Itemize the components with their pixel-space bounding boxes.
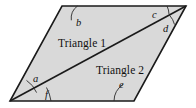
angle-label-d: d: [163, 23, 169, 34]
angle-label-e: e: [119, 79, 124, 90]
geometry-figure: Parallelogram divided by a diagonal into…: [0, 0, 196, 108]
angle-label-a: a: [33, 73, 38, 84]
parallelogram-diagram: Parallelogram divided by a diagonal into…: [0, 0, 196, 108]
angle-label-b: b: [76, 17, 81, 28]
region-label-triangle-2: Triangle 2: [96, 64, 144, 77]
angle-label-c: c: [152, 9, 157, 20]
region-label-triangle-1: Triangle 1: [58, 37, 106, 50]
